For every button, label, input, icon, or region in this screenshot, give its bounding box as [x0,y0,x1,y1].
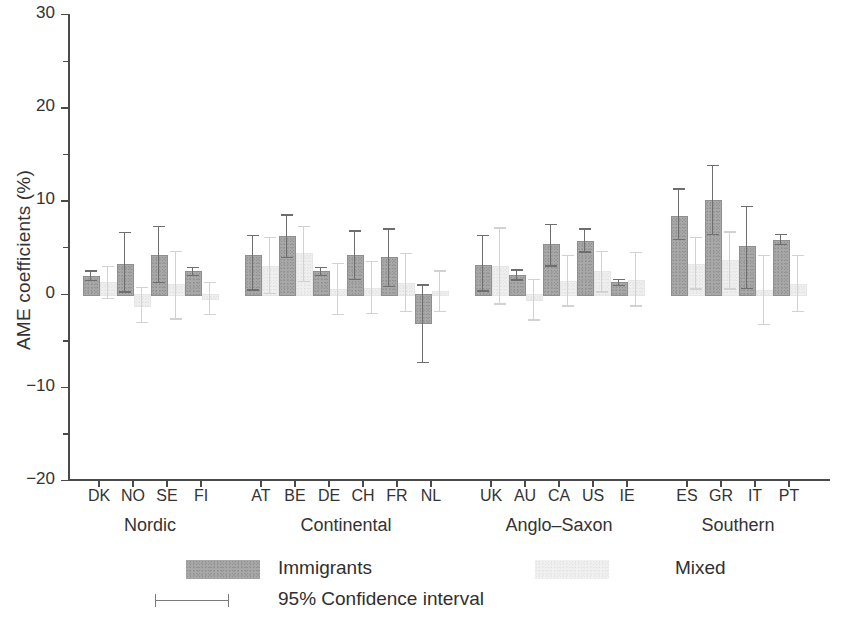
y-tick [61,387,69,388]
error-bar-de-mixed [330,263,345,315]
error-bar-uk-immigrants [475,235,490,292]
error-bar-dk-mixed [100,266,115,300]
legend-label-mixed: Mixed [675,557,726,579]
y-tick [61,14,69,15]
legend-swatch-immigrants [186,560,260,579]
error-bar-us-immigrants [577,228,592,252]
y-tick-label: 30 [15,3,55,23]
error-bar-no-mixed [134,287,149,323]
legend-swatch-confidence-interval [155,594,229,607]
error-bar-se-immigrants [151,226,166,284]
error-bar-fr-immigrants [381,228,396,287]
x-tick [490,479,491,487]
error-bar-it-mixed [756,255,771,326]
x-tick [132,479,133,487]
x-tick [754,479,755,487]
x-axis-line [68,479,830,481]
x-tick [200,479,201,487]
y-tick-label: −10 [15,376,55,396]
error-bar-at-mixed [262,237,277,295]
x-tick [260,479,261,487]
error-bar-fi-mixed [202,282,217,316]
y-tick-label: −20 [15,469,55,489]
error-bar-dk-immigrants [83,270,98,281]
error-bar-be-immigrants [279,214,294,258]
x-tick [686,479,687,487]
y-tick-label: 0 [15,283,55,303]
error-bar-es-immigrants [671,188,686,240]
x-tick [524,479,525,487]
x-tick [166,479,167,487]
error-bar-pt-mixed [790,255,805,313]
error-bar-gr-mixed [722,231,737,290]
x-tick-label-ie: IE [607,487,647,505]
error-bar-de-immigrants [313,267,328,276]
bar-pt-immigrants [773,240,790,296]
y-tick [61,480,69,481]
error-bar-es-mixed [688,237,703,290]
y-tick-label: 10 [15,189,55,209]
error-bar-nl-immigrants [415,284,430,363]
error-bar-at-immigrants [245,235,260,291]
x-tick [626,479,627,487]
x-tick [328,479,329,487]
error-bar-fi-immigrants [185,267,200,276]
legend-label-confidence-interval: 95% Confidence interval [278,588,484,610]
y-tick-minor [63,340,69,341]
y-tick-minor [63,154,69,155]
x-tick-label-pt: PT [769,487,809,505]
error-bar-it-immigrants [739,206,754,289]
error-bar-au-mixed [526,279,541,321]
x-tick-label-nl: NL [411,487,451,505]
error-bar-pt-immigrants [773,234,788,245]
y-tick [61,107,69,108]
y-tick-minor [63,247,69,248]
error-bar-us-mixed [594,251,609,293]
x-tick [558,479,559,487]
x-tick [592,479,593,487]
error-bar-ca-mixed [560,255,575,307]
error-bar-ie-immigrants [611,279,626,287]
error-bar-no-immigrants [117,232,132,293]
x-tick [294,479,295,487]
error-bar-au-immigrants [509,269,524,280]
y-tick-minor [63,61,69,62]
group-label-anglo-saxon: Anglo–Saxon [469,515,649,536]
y-axis-title: AME coefficients (%) [13,130,39,390]
legend-label-immigrants: Immigrants [278,557,372,579]
x-tick [788,479,789,487]
group-label-southern: Southern [648,515,828,536]
error-bar-se-mixed [168,251,183,320]
x-tick [430,479,431,487]
x-tick [98,479,99,487]
x-tick [720,479,721,487]
error-bar-fr-mixed [398,253,413,313]
group-label-nordic: Nordic [60,515,240,536]
y-tick [61,294,69,295]
error-bar-ie-mixed [628,252,643,307]
error-bar-uk-mixed [492,227,507,304]
chart-legend: Immigrants Mixed 95% Confidence interval [0,552,842,620]
y-tick-minor [63,433,69,434]
error-bar-ch-immigrants [347,230,362,280]
x-tick-label-fi: FI [181,487,221,505]
error-bar-ch-mixed [364,261,379,314]
x-tick [396,479,397,487]
y-tick [61,200,69,201]
error-bar-ca-immigrants [543,224,558,267]
y-tick-label: 20 [15,96,55,116]
group-label-continental: Continental [256,515,436,536]
legend-swatch-mixed [535,560,609,579]
error-bar-nl-mixed [432,270,447,312]
chart-figure: AME coefficients (%) 3020100−10−20 DKNOS… [0,0,842,620]
x-tick [362,479,363,487]
error-bar-be-mixed [296,226,311,283]
error-bar-gr-immigrants [705,165,720,235]
